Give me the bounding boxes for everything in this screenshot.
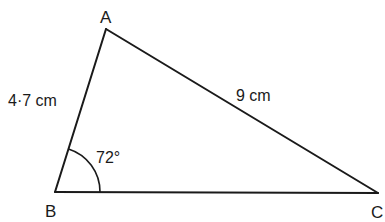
vertex-label-b: B [45, 202, 56, 221]
triangle-diagram: A B C 4·7 cm 9 cm 72° [0, 0, 385, 222]
side-bc [55, 192, 378, 193]
vertex-label-c: C [371, 203, 383, 222]
angle-label-b: 72° [96, 149, 120, 166]
side-ac [106, 29, 378, 193]
vertex-label-a: A [100, 8, 112, 27]
side-label-ac: 9 cm [236, 87, 271, 104]
side-ab [55, 29, 106, 192]
side-label-ab: 4·7 cm [8, 92, 57, 109]
